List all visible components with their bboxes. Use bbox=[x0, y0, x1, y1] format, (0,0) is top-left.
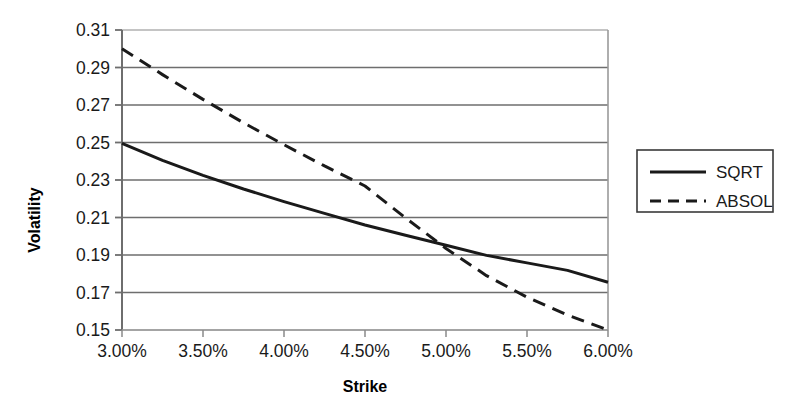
chart-legend: SQRTABSOL bbox=[637, 150, 773, 212]
y-tick-label: 0.21 bbox=[76, 208, 110, 228]
x-tick-label: 5.00% bbox=[421, 341, 471, 361]
y-tick-label: 0.25 bbox=[76, 133, 110, 153]
x-tick-label: 6.00% bbox=[583, 341, 633, 361]
legend-label-sqrt: SQRT bbox=[716, 163, 763, 182]
chart-figure: 0.310.290.270.250.230.210.190.170.15 3.0… bbox=[0, 0, 809, 402]
y-tick-label: 0.27 bbox=[76, 95, 110, 115]
volatility-smile-chart: 0.310.290.270.250.230.210.190.170.15 3.0… bbox=[0, 0, 809, 402]
y-tick-label: 0.17 bbox=[76, 283, 110, 303]
x-axis-title: Strike bbox=[343, 378, 388, 395]
y-axis-title: Volatility bbox=[26, 187, 43, 253]
legend-label-absol: ABSOL bbox=[716, 192, 773, 211]
y-tick-label: 0.15 bbox=[76, 320, 110, 340]
y-tick-label: 0.31 bbox=[76, 20, 110, 40]
x-tick-label: 4.50% bbox=[340, 341, 390, 361]
x-tick-label: 5.50% bbox=[502, 341, 552, 361]
y-tick-label: 0.19 bbox=[76, 245, 110, 265]
y-tick-label: 0.29 bbox=[76, 58, 110, 78]
y-tick-label: 0.23 bbox=[76, 170, 110, 190]
x-tick-label: 4.00% bbox=[259, 341, 309, 361]
x-tick-label: 3.50% bbox=[178, 341, 228, 361]
x-tick-label: 3.00% bbox=[97, 341, 147, 361]
y-axis-tick-labels: 0.310.290.270.250.230.210.190.170.15 bbox=[76, 20, 110, 340]
